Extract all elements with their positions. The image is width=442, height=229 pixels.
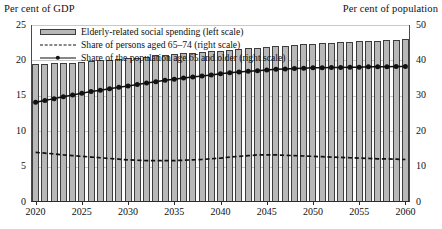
x-tick-label: 2045 <box>257 207 277 217</box>
line-marker <box>357 65 362 70</box>
line-marker <box>236 70 241 75</box>
x-tick-label: 2030 <box>118 207 138 217</box>
line-marker <box>301 66 306 71</box>
line-marker <box>52 96 57 101</box>
line-marker <box>255 68 260 73</box>
left-axis-title: Per cent of GDP <box>4 3 75 14</box>
chart-figure: Per cent of GDP Per cent of population 0… <box>0 0 442 229</box>
line-marker <box>116 85 121 90</box>
line-marker <box>375 64 380 69</box>
line-marker <box>126 83 131 88</box>
line-marker <box>33 100 38 105</box>
x-tick-label: 2020 <box>26 207 46 217</box>
x-tick-mark <box>221 202 222 205</box>
x-tick-mark <box>313 202 314 205</box>
line-marker <box>403 64 408 69</box>
line-marker <box>42 98 47 103</box>
line-marker <box>329 65 334 70</box>
line-marker <box>61 94 66 99</box>
left-tick-label: 25 <box>16 20 26 30</box>
right-axis-title: Per cent of population <box>343 3 438 14</box>
left-tick-label: 20 <box>16 55 26 65</box>
right-tick-label: 0 <box>416 197 421 207</box>
legend-item-aged-65-plus: Share of the population age 65 and older… <box>40 52 285 64</box>
line-marker <box>338 65 343 70</box>
line-marker <box>181 76 186 81</box>
line-marker <box>135 82 140 87</box>
legend: Elderly-related social spending (left sc… <box>40 26 285 65</box>
legend-item-aged-65-74: Share of persons aged 65–74 (right scale… <box>40 39 285 51</box>
line-marker <box>320 65 325 70</box>
right-tick-label: 40 <box>416 55 426 65</box>
left-tick-label: 5 <box>21 161 26 171</box>
line-marker <box>209 72 214 77</box>
line-marker <box>172 77 177 82</box>
left-tick-label: 10 <box>16 126 26 136</box>
x-tick-label: 2060 <box>395 207 415 217</box>
line-marker <box>283 66 288 71</box>
x-tick-label: 2035 <box>164 207 184 217</box>
line-marker <box>384 64 389 69</box>
line-marker <box>310 65 315 70</box>
x-tick-label: 2055 <box>349 207 369 217</box>
line-marker <box>163 78 168 83</box>
legend-label-aged-65-plus: Share of the population age 65 and older… <box>81 52 285 64</box>
line-marker <box>218 71 223 76</box>
line-marker <box>70 93 75 98</box>
line-marker <box>89 89 94 94</box>
line-markers-65-plus <box>33 64 408 105</box>
bar-swatch-icon <box>40 26 76 37</box>
line-marker <box>366 64 371 69</box>
right-tick-label: 20 <box>416 126 426 136</box>
line-marker <box>153 79 158 84</box>
x-tick-mark <box>128 202 129 205</box>
legend-label-spending: Elderly-related social spending (left sc… <box>81 26 244 38</box>
legend-label-aged-65-74: Share of persons aged 65–74 (right scale… <box>81 39 240 51</box>
right-tick-label: 30 <box>416 90 426 100</box>
line-aged-65-74 <box>36 152 406 160</box>
line-marker <box>227 70 232 75</box>
right-tick-label: 50 <box>416 20 426 30</box>
x-tick-mark <box>82 202 83 205</box>
line-marker <box>79 91 84 96</box>
line-marker <box>273 67 278 72</box>
left-tick-label: 15 <box>16 90 26 100</box>
x-tick-label: 2040 <box>211 207 231 217</box>
dashed-line-swatch-icon <box>40 39 76 50</box>
line-marker <box>190 75 195 80</box>
left-tick-label: 0 <box>21 197 26 207</box>
x-tick-mark <box>359 202 360 205</box>
line-marker <box>394 64 399 69</box>
x-tick-mark <box>36 202 37 205</box>
line-marker <box>347 65 352 70</box>
legend-item-spending: Elderly-related social spending (left sc… <box>40 26 285 38</box>
line-marker <box>264 67 269 72</box>
line-marker <box>200 73 205 78</box>
line-marker <box>98 88 103 93</box>
x-tick-label: 2050 <box>303 207 323 217</box>
line-marker <box>246 69 251 74</box>
right-tick-label: 10 <box>416 161 426 171</box>
marker-line-swatch-icon <box>40 52 76 63</box>
line-marker <box>292 66 297 71</box>
x-tick-label: 2025 <box>72 207 92 217</box>
line-marker <box>144 81 149 86</box>
x-tick-mark <box>405 202 406 205</box>
x-tick-mark <box>174 202 175 205</box>
line-marker <box>107 86 112 91</box>
x-tick-mark <box>267 202 268 205</box>
